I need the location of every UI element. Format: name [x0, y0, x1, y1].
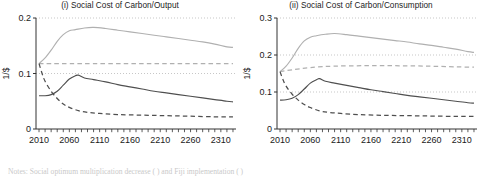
chart-panel-consumption: (ii) Social Cost of Carbon/Consumption 0… — [241, 0, 481, 155]
x-tick-label: 2160 — [120, 135, 140, 145]
series-line-dark-dashed — [280, 72, 474, 117]
y-tick-label: 0.1 — [259, 87, 272, 97]
y-tick-label: 0.1 — [18, 69, 31, 79]
series-line-dark-solid — [280, 79, 474, 103]
x-tick-label: 2110 — [331, 135, 350, 145]
series-line-light-dashed — [280, 66, 474, 72]
notes-label: Notes: — [8, 167, 28, 176]
x-tick-label: 2210 — [150, 135, 170, 145]
series-line-dark-solid — [39, 75, 233, 102]
y-axis-label: 1/$ — [242, 67, 252, 79]
y-tick-label: 0.3 — [259, 13, 272, 23]
x-tick-label: 2010 — [29, 135, 49, 145]
figure-notes: Notes: Social optimum multiplication dec… — [8, 166, 478, 180]
series-line-light-solid — [39, 27, 233, 63]
x-tick-label: 2060 — [300, 135, 320, 145]
x-tick-label: 2110 — [90, 135, 109, 145]
x-tick-label: 2060 — [59, 135, 79, 145]
x-tick-label: 2210 — [391, 135, 411, 145]
y-axis-label: 1/$ — [1, 67, 11, 79]
x-tick-label: 2160 — [361, 135, 381, 145]
y-tick-label: 0.2 — [259, 50, 272, 60]
x-tick-label: 2310 — [452, 135, 472, 145]
panel-title-consumption: (ii) Social Cost of Carbon/Consumption — [241, 0, 481, 12]
x-tick-label: 2010 — [270, 135, 290, 145]
x-tick-label: 2260 — [422, 135, 442, 145]
y-tick-label: 0.2 — [18, 13, 31, 23]
chart-panel-output: (i) Social Cost of Carbon/Output 00.10.2… — [0, 0, 240, 155]
y-tick-label: 0 — [267, 124, 272, 134]
plot-area-output: 00.10.21/$2010206021102160221022602310 — [0, 12, 240, 155]
figure-social-cost-of-carbon: (i) Social Cost of Carbon/Output 00.10.2… — [0, 0, 481, 180]
x-tick-label: 2260 — [181, 135, 201, 145]
series-line-dark-dashed — [39, 64, 233, 117]
notes-text: Social optimum multiplication decrease (… — [30, 167, 243, 176]
plot-area-consumption: 00.10.20.31/$201020602110216022102260231… — [241, 12, 481, 155]
y-tick-label: 0 — [26, 124, 31, 134]
panel-title-output: (i) Social Cost of Carbon/Output — [0, 0, 240, 12]
x-tick-label: 2310 — [211, 135, 231, 145]
series-line-light-solid — [280, 34, 474, 72]
